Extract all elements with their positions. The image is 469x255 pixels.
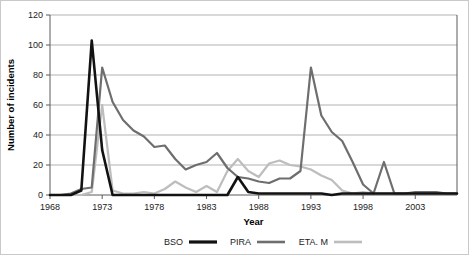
x-tick-label-1978: 1978	[144, 202, 164, 212]
y-tick-label-120: 120	[28, 10, 43, 20]
legend-item-eta-m: ETA. M	[299, 237, 362, 247]
legend-label: BSO	[164, 237, 183, 247]
x-tick-label-1988: 1988	[249, 202, 269, 212]
chart-figure: 0204060801001201968197319781983198819931…	[0, 0, 469, 255]
legend-label: ETA. M	[299, 237, 328, 247]
y-tick-label-0: 0	[38, 190, 43, 200]
y-axis-title: Number of incidents	[5, 59, 16, 151]
legend-item-bso: BSO	[164, 237, 217, 247]
y-tick-label-20: 20	[33, 160, 43, 170]
y-tick-label-80: 80	[33, 70, 43, 80]
x-tick-label-1968: 1968	[40, 202, 60, 212]
x-tick-label-2003: 2003	[405, 202, 425, 212]
incidents-line-chart: 0204060801001201968197319781983198819931…	[1, 1, 469, 255]
series-line-eta-m	[50, 105, 457, 195]
x-axis-title: Year	[243, 216, 263, 227]
x-tick-label-1983: 1983	[197, 202, 217, 212]
y-tick-label-60: 60	[33, 100, 43, 110]
legend-item-pira: PIRA	[230, 237, 285, 247]
legend-label: PIRA	[230, 237, 251, 247]
y-tick-label-40: 40	[33, 130, 43, 140]
x-tick-label-1998: 1998	[353, 202, 373, 212]
x-tick-label-1973: 1973	[92, 202, 112, 212]
y-tick-label-100: 100	[28, 40, 43, 50]
x-tick-label-1993: 1993	[301, 202, 321, 212]
